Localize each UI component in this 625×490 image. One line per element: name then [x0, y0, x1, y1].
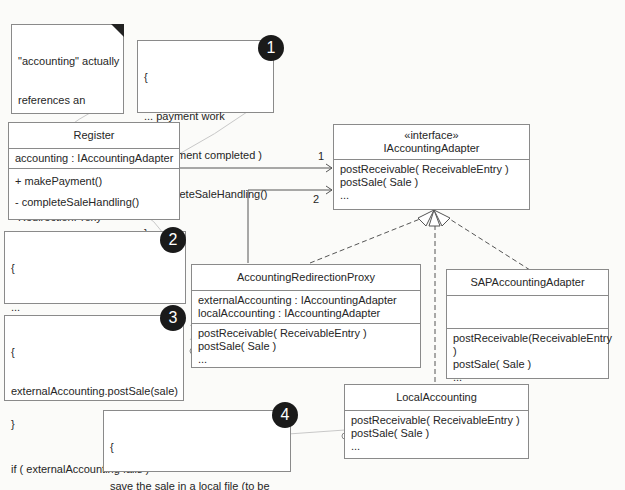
operation: + makePayment(): [15, 175, 173, 188]
note-line: "accounting" actually: [18, 55, 117, 68]
multiplicity-label: 1: [318, 150, 324, 162]
note-1: { ... payment work if ( payment complete…: [137, 40, 274, 113]
operation: postReceivable( ReceivableEntry ): [351, 414, 522, 427]
class-name: LocalAccounting: [345, 385, 528, 410]
note-4: { save the sale in a local file (to be f…: [103, 410, 291, 472]
class-name: AccountingRedirectionProxy: [192, 265, 420, 290]
note-2: { ... accounting.postSale( currentSale )…: [4, 231, 186, 304]
attributes-section: [447, 295, 608, 328]
note-line: {: [11, 262, 179, 275]
multiplicity-label: 2: [313, 193, 319, 205]
stereotype: «interface»: [338, 129, 525, 142]
note-line: save the sale in a local file (to be: [110, 480, 284, 490]
class-name: SAPAccountingAdapter: [447, 270, 608, 295]
note-line: {: [144, 71, 267, 84]
class-accountingredirectionproxy: AccountingRedirectionProxy externalAccou…: [191, 264, 421, 368]
operation: postSale( Sale ): [340, 176, 523, 189]
operation: postReceivable(ReceivableEntry: [453, 332, 602, 345]
step-badge-4: 4: [272, 402, 298, 428]
operation: postReceivable( ReceivableEntry ): [198, 327, 414, 340]
operation: postReceivable( ReceivableEntry ): [340, 163, 523, 176]
attributes-section: accounting : IAccountingAdapter: [9, 148, 179, 168]
operations-section: postReceivable( ReceivableEntry ) postSa…: [334, 159, 529, 205]
operation: postSale( Sale ): [351, 427, 522, 440]
attribute: accounting : IAccountingAdapter: [15, 152, 173, 165]
interface-iaccountingadapter: «interface» IAccountingAdapter postRecei…: [333, 124, 530, 210]
class-sapaccountingadapter: SAPAccountingAdapter postReceivable(Rece…: [446, 269, 609, 379]
attribute: localAccounting : IAccountingAdapter: [198, 307, 414, 320]
operation: postSale( Sale ): [198, 340, 414, 353]
operation: ...: [198, 353, 414, 366]
note-line: ...: [11, 301, 179, 314]
operation: ): [453, 345, 602, 358]
class-localaccounting: LocalAccounting postReceivable( Receivab…: [344, 384, 529, 459]
accounting-reference-note: "accounting" actually references an inst…: [11, 24, 124, 114]
operation: postSale( Sale ): [453, 358, 602, 371]
operations-section: postReceivable( ReceivableEntry ) postSa…: [345, 410, 528, 456]
note-line: {: [110, 441, 284, 454]
step-badge-2: 2: [160, 227, 186, 253]
attribute: externalAccounting : IAccountingAdapter: [198, 294, 414, 307]
attributes-section: externalAccounting : IAccountingAdapter …: [192, 290, 420, 323]
note-line: references an: [18, 94, 117, 107]
step-badge-3: 3: [160, 305, 186, 331]
operation: ...: [351, 440, 522, 453]
operations-section: postReceivable(ReceivableEntry ) postSal…: [447, 328, 608, 387]
operations-section: + makePayment() - completeSaleHandling(): [9, 168, 179, 212]
class-register: Register accounting : IAccountingAdapter…: [8, 122, 180, 220]
note-line: externalAccounting.postSale(sale): [11, 385, 177, 398]
interface-header: «interface» IAccountingAdapter: [334, 125, 529, 159]
operation: ...: [453, 371, 602, 384]
operation: - completeSaleHandling(): [15, 196, 173, 209]
operations-section: postReceivable( ReceivableEntry ) postSa…: [192, 323, 420, 369]
operation: ...: [340, 189, 523, 202]
step-badge-1: 1: [258, 35, 284, 61]
note-line: {: [11, 346, 177, 359]
class-name: IAccountingAdapter: [338, 142, 525, 155]
note-3: { externalAccounting.postSale(sale) if (…: [4, 315, 184, 401]
class-name: Register: [9, 123, 179, 148]
